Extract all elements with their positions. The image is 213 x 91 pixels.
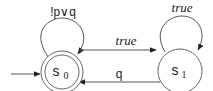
transition-label-s0-s0: !p∨q xyxy=(50,5,76,19)
self-loop-s1 xyxy=(160,16,202,52)
state-s1-label: s xyxy=(172,62,179,78)
state-s0-subscript: 0 xyxy=(64,70,69,81)
automaton-diagram: !p∨q true true q s 0 s 1 xyxy=(0,0,213,91)
state-s0-inner-ring xyxy=(45,55,79,89)
transition-label-s0-s1: true xyxy=(116,33,137,48)
state-s0-label: s xyxy=(53,63,60,79)
state-s0: s 0 xyxy=(41,51,83,91)
state-s1: s 1 xyxy=(158,49,202,91)
state-s1-subscript: 1 xyxy=(182,69,187,80)
transition-label-s1-s1: true xyxy=(172,0,193,15)
transition-label-s1-s0: q xyxy=(116,67,123,81)
state-s1-circle xyxy=(158,49,202,91)
